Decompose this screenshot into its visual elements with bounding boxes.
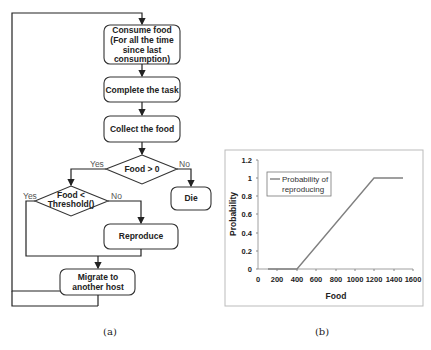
chart: 0 0.2 0.4 0.6 0.8 1 1.2 0 200 400 600 80…: [225, 150, 423, 337]
caption-b: (b): [315, 326, 329, 337]
svg-text:0.6: 0.6: [242, 210, 252, 219]
decision1-yes-label: Yes: [90, 159, 104, 169]
svg-text:1400: 1400: [386, 275, 403, 284]
migrate-line2: another host: [72, 282, 124, 292]
svg-text:0: 0: [248, 265, 252, 274]
svg-text:1600: 1600: [405, 275, 422, 284]
arrow-yes-decision2: [71, 169, 106, 185]
x-axis-title: Food: [326, 291, 347, 301]
legend-line1: Probability of: [282, 175, 329, 184]
reproduce-label: Reproduce: [119, 231, 164, 241]
die-label: Die: [184, 193, 198, 203]
arrow-no-die: [177, 169, 191, 186]
consume-line2: (For all the time: [110, 35, 174, 45]
complete-task-label: Complete the task: [105, 85, 178, 95]
decision1-label: Food > 0: [124, 164, 159, 174]
consume-line1: Consume food: [112, 25, 172, 35]
consume-line4: consumption): [114, 54, 170, 64]
y-axis-title: Probability: [228, 192, 238, 236]
svg-text:1: 1: [248, 174, 252, 183]
svg-text:0.8: 0.8: [242, 192, 252, 201]
decision1-no-label: No: [179, 159, 190, 169]
svg-text:0.2: 0.2: [242, 247, 252, 256]
svg-text:1.2: 1.2: [242, 156, 252, 165]
decision2-no-label: No: [111, 191, 122, 201]
svg-text:200: 200: [271, 275, 284, 284]
legend-line2: reproducing: [282, 185, 324, 194]
collect-food-label: Collect the food: [110, 124, 174, 134]
arrow-no-reproduce: [108, 201, 141, 223]
svg-text:0: 0: [256, 275, 260, 284]
caption-a: (a): [103, 326, 117, 337]
migrate-line1: Migrate to: [78, 272, 119, 282]
decision2-yes-label: Yes: [23, 191, 37, 201]
svg-text:800: 800: [330, 275, 343, 284]
svg-text:0.4: 0.4: [242, 229, 253, 238]
svg-text:600: 600: [310, 275, 323, 284]
svg-text:1200: 1200: [366, 275, 383, 284]
flowchart: Consume food (For all the time since las…: [12, 13, 211, 337]
decision2-line2: Threshold(): [48, 199, 95, 209]
svg-text:1000: 1000: [347, 275, 364, 284]
svg-text:400: 400: [291, 275, 304, 284]
figure-canvas: Consume food (For all the time since las…: [0, 0, 431, 350]
